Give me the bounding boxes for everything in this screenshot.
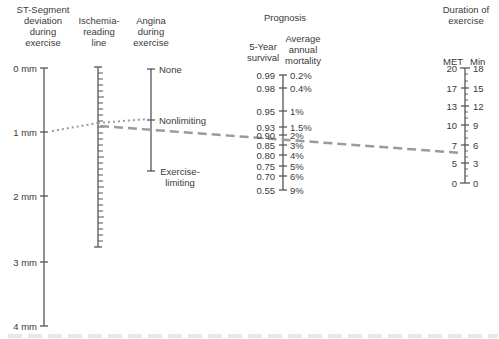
- min-1: 15: [473, 83, 484, 94]
- mortality-2: 1%: [290, 106, 304, 117]
- mortality-8: 6%: [290, 171, 304, 182]
- survival-6: 0.80: [240, 150, 275, 161]
- survival-9: 0.55: [240, 185, 275, 196]
- st-label-1: 1 mm: [0, 127, 37, 138]
- met-0: 20: [440, 63, 457, 74]
- survival-8: 0.70: [240, 171, 275, 182]
- met-5: 5: [440, 158, 457, 169]
- met-6: 0: [440, 178, 457, 189]
- label-line: limiting: [156, 177, 204, 188]
- min-0: 18: [473, 63, 484, 74]
- met-1: 17: [440, 83, 457, 94]
- st-label-2: 2 mm: [0, 191, 37, 202]
- mortality-0: 0.2%: [290, 70, 312, 81]
- ischemia-to-angina-dotted-line: [98, 119, 148, 123]
- min-4: 6: [473, 140, 478, 151]
- angina-none: None: [159, 64, 182, 75]
- st-label-0: 0 mm: [0, 63, 37, 74]
- met-4: 7: [440, 140, 457, 151]
- min-3: 9: [473, 120, 478, 131]
- mortality-9: 9%: [290, 185, 304, 196]
- min-5: 3: [473, 158, 478, 169]
- prognosis-dashed-line: [100, 126, 462, 153]
- mortality-6: 4%: [290, 150, 304, 161]
- survival-1: 0.98: [240, 83, 275, 94]
- survival-0: 0.99: [240, 70, 275, 81]
- st-label-4: 4 mm: [0, 321, 37, 332]
- met-2: 13: [440, 101, 457, 112]
- angina-exercise-limiting: Exercise- limiting: [156, 166, 204, 188]
- min-6: 0: [473, 178, 478, 189]
- cut-off-caption: [8, 334, 498, 338]
- min-2: 12: [473, 101, 484, 112]
- survival-2: 0.95: [240, 106, 275, 117]
- angina-nonlimiting: Nonlimiting: [159, 115, 206, 126]
- st-label-3: 3 mm: [0, 257, 37, 268]
- mortality-1: 0.4%: [290, 83, 312, 94]
- label-line: Exercise-: [156, 166, 204, 177]
- st-to-ischemia-dotted-line: [52, 123, 98, 131]
- met-3: 10: [440, 120, 457, 131]
